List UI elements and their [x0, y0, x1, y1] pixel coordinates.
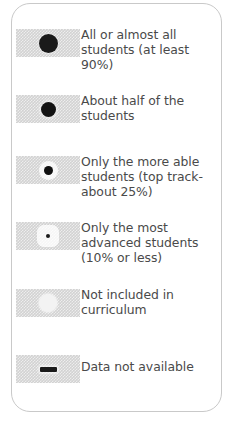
- legend-swatch: [16, 29, 80, 57]
- legend-list: All or almost all students (at least 90%…: [12, 4, 221, 411]
- open-white-circle-icon: [39, 294, 57, 312]
- legend-swatch: [16, 95, 80, 123]
- legend-label: Only the more able students (top track- …: [81, 154, 217, 200]
- legend-swatch: [16, 289, 80, 317]
- large-filled-circle-icon: [39, 34, 58, 53]
- legend-card: All or almost all students (at least 90%…: [11, 3, 222, 412]
- legend-label: Only the most advanced students (10% or …: [81, 220, 217, 266]
- small-dot-circle-icon: [44, 166, 53, 175]
- legend-label: Data not available: [81, 359, 217, 374]
- legend-label: All or almost all students (at least 90%…: [81, 27, 217, 73]
- horizontal-dash-icon: [40, 367, 57, 372]
- legend-label: Not included in curriculum: [81, 287, 217, 317]
- legend-swatch: [16, 355, 80, 383]
- legend-label: About half of the students: [81, 93, 217, 123]
- legend-swatch: [16, 222, 80, 250]
- medium-filled-circle-icon: [41, 102, 56, 117]
- tiny-dot-circle-icon: [46, 234, 50, 238]
- legend-swatch: [16, 156, 80, 184]
